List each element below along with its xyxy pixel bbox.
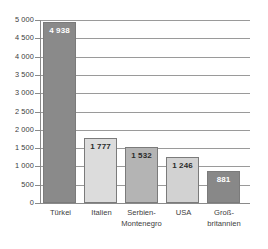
y-tick-label: 4 500 (0, 34, 34, 42)
bar-italien[interactable]: 1 777 (84, 138, 117, 203)
bar-value-label: 4 938 (44, 26, 75, 35)
bar-tuerkei[interactable]: 4 938 (43, 22, 76, 203)
x-axis-line (41, 203, 250, 204)
category-line-1: Türkei (50, 208, 71, 217)
bar-value-label: 1 246 (167, 161, 198, 170)
bar-series: 4 938 1 777 1 532 1 246 881 (41, 20, 250, 203)
y-tick-label: 2 000 (0, 126, 34, 134)
y-tick-label: 3 500 (0, 71, 34, 79)
bar-value-label: 881 (208, 175, 239, 184)
y-tick-label: 500 (0, 181, 34, 189)
y-tick-label: 3 000 (0, 89, 34, 97)
x-axis-categories: Türkei Italien Serbien- Montenegro USA G… (41, 208, 250, 248)
category-line-1: Serbien- (127, 208, 156, 217)
bar-value-label: 1 777 (85, 142, 116, 151)
category-line-1: USA (176, 208, 192, 217)
y-tick-label: 5 000 (0, 16, 34, 24)
bar-chart: 5 000 4 500 4 000 3 500 3 000 2 500 2 00… (0, 0, 268, 249)
bar-serbien-montenegro[interactable]: 1 532 (125, 147, 158, 203)
category-line-2: britannien (196, 219, 252, 230)
bar-usa[interactable]: 1 246 (166, 157, 199, 203)
category-line-1: Italien (91, 208, 111, 217)
y-tick-label: 2 500 (0, 108, 34, 116)
bar-value-label: 1 532 (126, 151, 157, 160)
y-tick-label: 1 000 (0, 162, 34, 170)
category-line-1: Groß- (214, 208, 234, 217)
category-label-grossbritannien: Groß- britannien (196, 208, 252, 229)
bar-grossbritannien[interactable]: 881 (207, 171, 240, 203)
y-tick-label: 0 (0, 199, 34, 207)
y-tick-label: 4 000 (0, 53, 34, 61)
y-tick-label: 1 500 (0, 144, 34, 152)
category-line-2: Montenegro (110, 219, 173, 230)
